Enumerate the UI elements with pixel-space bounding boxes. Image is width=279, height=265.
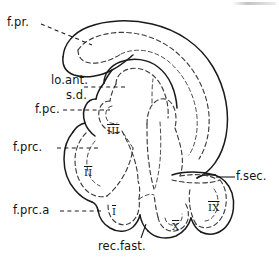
label-s-d: s.d. xyxy=(66,90,87,102)
dashed-superior-band-inner xyxy=(121,50,197,155)
outline-lobule-iii-border xyxy=(84,99,96,136)
outline-lobus-anterior-upper xyxy=(104,59,177,108)
dashed-lobule-x-stem xyxy=(154,195,158,217)
dashed-lobule-ii-branch xyxy=(107,148,133,196)
dashed-core-right-branch xyxy=(175,128,182,176)
dashed-core-base xyxy=(139,194,154,199)
dashed-core-upper-loop xyxy=(147,99,176,128)
label-f-pc: f.pc. xyxy=(35,104,60,116)
dashed-core-trunk xyxy=(147,124,154,189)
label-f-pr: f.pr. xyxy=(7,17,29,29)
outline-lobule-x-border xyxy=(148,218,191,238)
leader-f-pr xyxy=(41,24,92,45)
dashed-lobule-ii-core xyxy=(75,133,107,197)
label-f-prc: f.prc. xyxy=(13,142,42,154)
label-rec-fast: rec.fast. xyxy=(98,241,146,253)
dashed-lobule-i-stem xyxy=(138,181,140,199)
outline-uvula-notch xyxy=(191,218,201,232)
outline-precentral-notch xyxy=(73,123,85,132)
dashed-core-trunk-right xyxy=(155,122,161,188)
figure-root: f.pr. lo.ant. s.d. f.pc. f.prc. f.prc.a … xyxy=(0,0,279,265)
dashed-central-stem-left xyxy=(122,131,138,181)
label-lobule-i: I xyxy=(112,207,116,217)
dashed-superior-band-return xyxy=(78,50,121,63)
label-lo-ant: lo.ant. xyxy=(51,75,88,87)
dashed-lobus-anterior-core xyxy=(116,68,168,118)
dashed-median-gap xyxy=(152,79,153,103)
dashed-fissura-secunda-lower-lip xyxy=(172,180,220,183)
label-lobule-x: X xyxy=(172,222,179,232)
dashed-superior-band-core xyxy=(78,32,209,159)
outline-lobus-anterior-lower xyxy=(96,83,104,99)
label-lobule-ix: IX xyxy=(208,203,219,213)
dashed-lobule-iii-inner xyxy=(106,106,117,124)
outline-preculminate-a-notch xyxy=(92,202,98,210)
dashed-core-left-branch xyxy=(122,131,133,148)
label-f-sec: f.sec. xyxy=(236,171,267,183)
label-f-prc-a: f.prc.a xyxy=(13,205,49,217)
label-lobule-iii: III xyxy=(107,126,119,136)
cerebellum-line-drawing xyxy=(0,0,279,265)
label-lobule-ii: II xyxy=(84,168,92,178)
